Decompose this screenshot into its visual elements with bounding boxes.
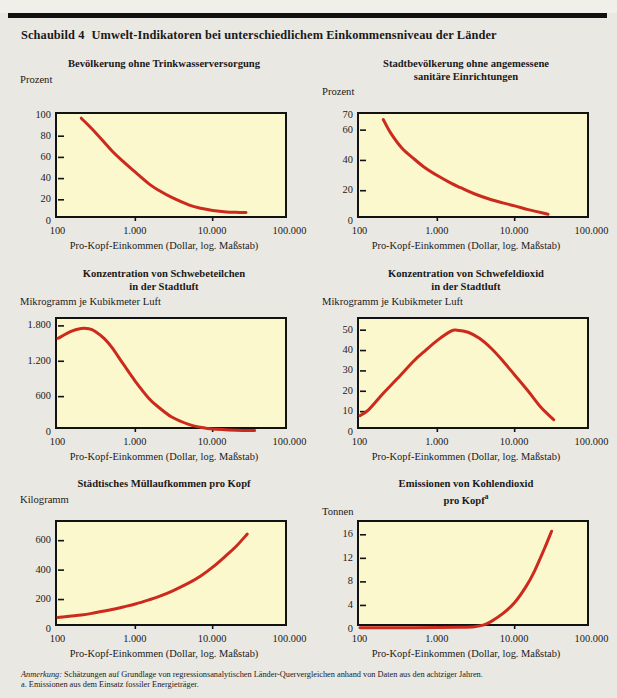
note-label: Anmerkung:	[21, 670, 62, 679]
note-anmerkung: Anmerkung: Schätzungen auf Grundlage von…	[21, 670, 601, 680]
y-tick-label: 10	[319, 406, 353, 416]
chart-title-line: pro Kopfa	[316, 491, 616, 507]
x-axis-caption-particulates: Pro-Kopf-Einkommen (Dollar, log. Maßstab…	[14, 451, 314, 462]
x-tick-label: 100	[330, 437, 390, 447]
y-tick-label: 8	[319, 576, 353, 586]
x-tick-label: 1.000	[105, 437, 165, 447]
plot-canvas-sulphur-dioxide	[360, 320, 592, 432]
figure-title: Schaubild 4Umwelt-Indikatoren bei unters…	[21, 28, 497, 43]
y-tick-label: 200	[17, 594, 51, 604]
x-axis-caption-water: Pro-Kopf-Einkommen (Dollar, log. Maßstab…	[14, 240, 314, 251]
figure-notes: Anmerkung: Schätzungen auf Grundlage von…	[21, 670, 601, 691]
y-tick-label: 40	[319, 345, 353, 355]
y-tick-label: 50	[319, 325, 353, 335]
y-tick-label: 30	[319, 365, 353, 375]
y-tick-label: 70	[319, 110, 353, 120]
chart-panel-particulates: Konzentration von Schwebeteilchenin der …	[14, 268, 314, 468]
y-tick-label: 20	[319, 386, 353, 396]
x-tick-label: 100	[28, 226, 88, 236]
y-tick-label: 1.800	[17, 320, 51, 330]
plot-canvas-sanitation	[360, 115, 592, 221]
x-tick-label: 1.000	[105, 634, 165, 644]
x-tick-label: 100.000	[562, 226, 617, 236]
x-tick-label: 100	[330, 226, 390, 236]
x-tick-label: 100.000	[260, 226, 320, 236]
x-axis-caption-municipal-waste: Pro-Kopf-Einkommen (Dollar, log. Maßstab…	[14, 648, 314, 659]
y-tick-label: 60	[17, 152, 51, 162]
chart-title-particulates: Konzentration von Schwebeteilchenin der …	[14, 268, 314, 293]
data-curve-carbon-dioxide	[360, 531, 552, 628]
x-tick-label: 1.000	[407, 634, 467, 644]
chart-title-line: Konzentration von Schwebeteilchen	[14, 268, 314, 281]
figure-number: Schaubild 4	[21, 28, 84, 42]
y-axis-unit-sanitation: Prozent	[322, 86, 354, 97]
y-tick-label: 16	[319, 529, 353, 539]
x-tick-label: 100.000	[260, 634, 320, 644]
chart-title-line: Bevölkerung ohne Trinkwasserversorgung	[14, 58, 314, 71]
figure-title-text: Umwelt-Indikatoren bei unterschiedlichem…	[91, 28, 496, 42]
y-tick-label: 400	[17, 565, 51, 575]
x-tick-label: 1.000	[407, 437, 467, 447]
y-tick-label: 4	[319, 600, 353, 610]
plot-canvas-municipal-waste	[58, 523, 290, 629]
y-axis-unit-particulates: Mikrogramm je Kubikmeter Luft	[20, 296, 161, 307]
x-tick-label: 100.000	[260, 437, 320, 447]
plot-canvas-carbon-dioxide	[360, 523, 592, 629]
chart-panel-water: Bevölkerung ohne TrinkwasserversorgungPr…	[14, 58, 314, 258]
y-tick-label: 1.200	[17, 356, 51, 366]
y-tick-label: 0	[319, 427, 353, 437]
y-tick-label: 20	[17, 194, 51, 204]
x-tick-label: 1.000	[105, 226, 165, 236]
y-tick-label: 0	[319, 624, 353, 634]
x-axis-caption-sulphur-dioxide: Pro-Kopf-Einkommen (Dollar, log. Maßstab…	[316, 451, 616, 462]
chart-title-line: Konzentration von Schwefeldioxid	[316, 268, 616, 281]
x-tick-label: 10.000	[484, 634, 544, 644]
data-curve-particulates	[58, 328, 255, 430]
y-tick-label: 80	[17, 131, 51, 141]
chart-title-line: Emissionen von Kohlendioxid	[316, 478, 616, 491]
y-axis-unit-carbon-dioxide: Tonnen	[322, 506, 354, 517]
y-axis-unit-sulphur-dioxide: Mikrogramm je Kubikmeter Luft	[322, 296, 463, 307]
x-tick-label: 10.000	[182, 634, 242, 644]
y-tick-label: 40	[17, 173, 51, 183]
chart-title-municipal-waste: Städtisches Müllaufkommen pro Kopf	[14, 478, 314, 491]
y-tick-label: 600	[17, 391, 51, 401]
x-tick-label: 1.000	[407, 226, 467, 236]
footnote-marker: a	[485, 492, 489, 501]
y-axis-unit-municipal-waste: Kilogramm	[20, 494, 69, 505]
y-tick-label: 600	[17, 535, 51, 545]
x-tick-label: 10.000	[484, 226, 544, 236]
chart-panel-sanitation: Stadtbevölkerung ohne angemessenesanitär…	[316, 58, 616, 258]
x-tick-label: 10.000	[182, 226, 242, 236]
y-tick-label: 0	[17, 624, 51, 634]
note-footnote-a: a. Emissionen aus dem Einsatz fossiler E…	[21, 680, 601, 690]
y-tick-label: 12	[319, 553, 353, 563]
y-tick-label: 0	[319, 216, 353, 226]
chart-title-sanitation: Stadtbevölkerung ohne angemessenesanitär…	[316, 58, 616, 83]
y-tick-label: 0	[17, 216, 51, 226]
note-text: Schätzungen auf Grundlage von regression…	[62, 670, 483, 679]
data-curve-sanitation	[383, 119, 548, 214]
chart-title-line: in der Stadtluft	[316, 281, 616, 294]
data-curve-sulphur-dioxide	[360, 329, 554, 419]
x-tick-label: 100	[330, 634, 390, 644]
chart-title-water: Bevölkerung ohne Trinkwasserversorgung	[14, 58, 314, 71]
figure-page: Schaubild 4Umwelt-Indikatoren bei unters…	[0, 0, 617, 698]
x-tick-label: 100.000	[562, 634, 617, 644]
y-tick-label: 0	[17, 427, 51, 437]
plot-canvas-water	[58, 115, 290, 221]
chart-panel-sulphur-dioxide: Konzentration von Schwefeldioxidin der S…	[316, 268, 616, 468]
y-axis-unit-water: Prozent	[20, 74, 52, 85]
x-axis-caption-carbon-dioxide: Pro-Kopf-Einkommen (Dollar, log. Maßstab…	[316, 648, 616, 659]
y-tick-label: 40	[319, 155, 353, 165]
chart-panel-carbon-dioxide: Emissionen von Kohlendioxidpro KopfaTonn…	[316, 478, 616, 678]
y-tick-label: 100	[17, 110, 51, 120]
x-tick-label: 100	[28, 437, 88, 447]
chart-title-line: in der Stadtluft	[14, 281, 314, 294]
chart-title-line: sanitäre Einrichtungen	[316, 71, 616, 84]
x-tick-label: 100.000	[562, 437, 617, 447]
page-top-margin	[0, 0, 617, 13]
chart-title-line: Stadtbevölkerung ohne angemessene	[316, 58, 616, 71]
data-curve-water	[81, 118, 246, 212]
chart-title-sulphur-dioxide: Konzentration von Schwefeldioxidin der S…	[316, 268, 616, 293]
